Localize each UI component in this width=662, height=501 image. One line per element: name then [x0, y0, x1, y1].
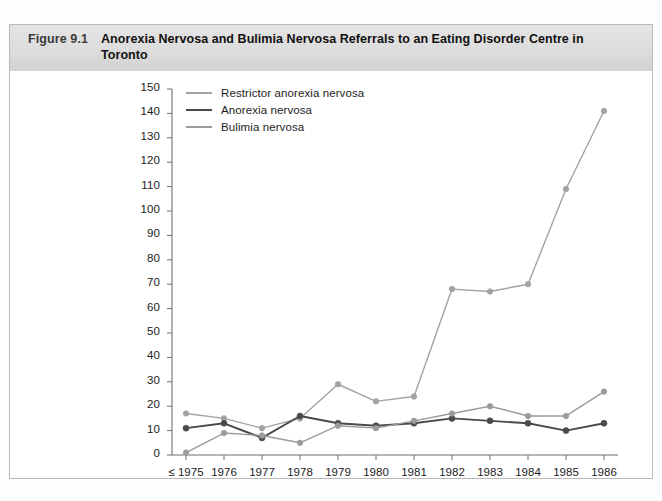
figure-container: Figure 9.1 Anorexia Nervosa and Bulimia … [0, 0, 662, 501]
figure-number: Figure 9.1 [28, 32, 101, 48]
figure-frame [9, 24, 653, 479]
figure-title: Anorexia Nervosa and Bulimia Nervosa Ref… [101, 32, 606, 63]
caption: Figure 9.1 Anorexia Nervosa and Bulimia … [10, 25, 652, 71]
